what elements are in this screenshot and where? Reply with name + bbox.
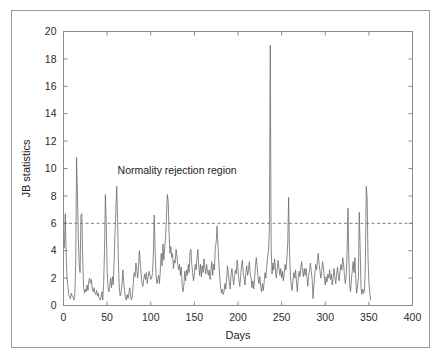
chart-plot: 0246810121416182005010015020025030035040… (0, 0, 441, 359)
y-tick-label: 8 (51, 190, 57, 202)
x-tick-label: 150 (186, 311, 204, 323)
y-tick-label: 10 (45, 162, 57, 174)
x-tick-label: 50 (101, 311, 113, 323)
y-axis-title: JB statistics (20, 139, 32, 198)
x-tick-label: 200 (229, 311, 247, 323)
y-tick-label: 18 (45, 53, 57, 65)
y-tick-label: 16 (45, 80, 57, 92)
annotation-normality-rejection-region: Normality rejection region (118, 164, 237, 176)
y-tick-label: 2 (51, 272, 57, 284)
x-tick-label: 100 (142, 311, 160, 323)
y-tick-label: 14 (45, 107, 57, 119)
figure-container: 0246810121416182005010015020025030035040… (0, 0, 441, 359)
y-tick-label: 12 (45, 135, 57, 147)
y-tick-label: 0 (51, 299, 57, 311)
y-tick-label: 6 (51, 217, 57, 229)
x-tick-label: 0 (61, 311, 67, 323)
x-tick-label: 400 (404, 311, 422, 323)
x-tick-label: 300 (316, 311, 334, 323)
x-tick-label: 350 (360, 311, 378, 323)
y-tick-label: 4 (51, 244, 57, 256)
x-tick-label: 250 (273, 311, 291, 323)
x-axis-title: Days (225, 329, 251, 341)
y-tick-label: 20 (45, 25, 57, 37)
